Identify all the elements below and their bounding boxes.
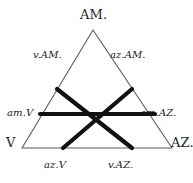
triangular-diagram: AM. V AZ. v.AM. az.AM. am.V am.AZ. az.V … [0, 0, 193, 183]
midpoint-label-right: am.AZ. [140, 108, 176, 118]
midpoint-label-lower-right: v.AZ. [108, 160, 133, 170]
vertex-label-apex: AM. [80, 8, 107, 21]
diagram-canvas [0, 0, 193, 183]
vertex-label-bottom-left: V [6, 136, 16, 149]
midpoint-label-lower-left: az.V [44, 160, 66, 170]
midpoint-label-upper-right: az.AM. [110, 50, 146, 60]
vertex-label-bottom-right: AZ. [171, 136, 193, 149]
outer-triangle-outline [22, 30, 172, 148]
midpoint-label-upper-left: v.AM. [33, 50, 62, 60]
midpoint-label-left: am.V [7, 108, 33, 118]
medial-triangle [40, 89, 155, 148]
outer-triangle [22, 30, 172, 148]
